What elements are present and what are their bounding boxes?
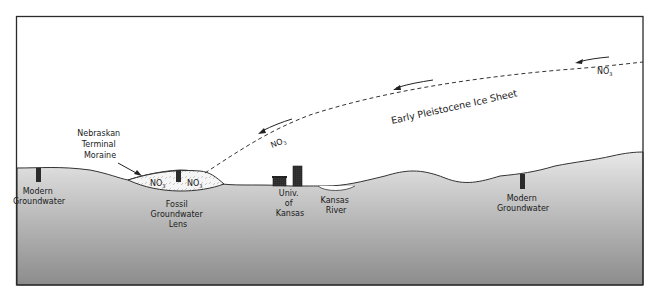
ground-layer (17, 152, 643, 285)
nitrate-label-ice-right: NO3 (597, 67, 612, 77)
university-buildings-icon (272, 166, 302, 186)
nitrate-label-ice-middle: NO3 (269, 136, 287, 151)
ice-flow-arrow-middle-icon (393, 80, 433, 90)
ice-sheet-label: Early Pleistocene Ice Sheet (390, 87, 518, 126)
well-right (520, 174, 525, 189)
geologic-cross-section: Early Pleistocene Ice Sheet NO3 NO3 NO3 … (0, 0, 660, 296)
well-lens (176, 170, 181, 182)
ice-flow-arrow-right-icon (575, 57, 609, 64)
moraine-label: Nebraskan Terminal Moraine (77, 129, 122, 160)
well-left (36, 168, 41, 182)
ice-flow-arrow-left-icon (258, 119, 292, 134)
moraine-pointer-arrow-icon (118, 163, 142, 176)
